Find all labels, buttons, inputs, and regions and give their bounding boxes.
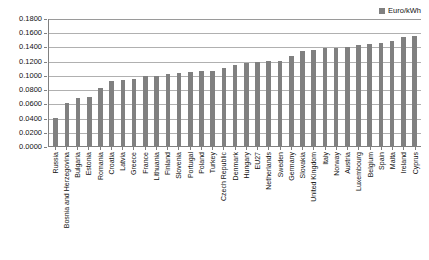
x-axis-slot: Finland [162, 148, 173, 258]
bar-slot [387, 19, 398, 146]
bar-slot [173, 19, 184, 146]
bar-slot [375, 19, 386, 146]
x-axis-tick-label: Estonia [85, 152, 92, 175]
x-axis-tick-label: Bulgaria [74, 152, 81, 178]
bar-slot [241, 19, 252, 146]
x-axis-slot: Romania [94, 148, 105, 258]
y-axis-tick-label: 0.1400 [19, 44, 42, 52]
x-axis-tick-label: United Kingdom [310, 152, 317, 202]
bar [379, 43, 384, 146]
x-axis-tick-label: Turkey [209, 152, 216, 173]
x-axis-tick-label: EU27 [254, 152, 261, 170]
y-axis-tick-label: 0.1600 [19, 29, 42, 37]
bar [323, 48, 328, 146]
y-axis-tick-label: 0.0400 [19, 115, 42, 123]
y-axis-tick-label: 0.0600 [19, 101, 42, 109]
x-axis-slot: Slovakia [297, 148, 308, 258]
y-axis-tick-mark [44, 119, 47, 120]
x-axis-slot: Bosnia and Herzegovina [60, 148, 71, 258]
bar [412, 36, 417, 146]
x-axis-tick-mark [167, 147, 168, 150]
bar-slot [72, 19, 83, 146]
bar [65, 103, 70, 146]
bar [177, 73, 182, 146]
bar-slot [263, 19, 274, 146]
x-axis-tick-mark [370, 147, 371, 150]
x-axis-slot: Spain [375, 148, 386, 258]
x-axis-slot: Estonia [83, 148, 94, 258]
bar [278, 61, 283, 146]
x-axis-tick-label: Hungary [242, 152, 249, 178]
bar-series-euro-per-kwh [49, 19, 421, 146]
bar [210, 71, 215, 146]
bar [98, 88, 103, 146]
bar [143, 76, 148, 146]
bar [300, 51, 305, 146]
bar-slot [274, 19, 285, 146]
bar [401, 37, 406, 146]
bar [87, 97, 92, 146]
x-axis-tick-label: Czech Republic [220, 152, 227, 201]
plot-area [48, 19, 421, 147]
bar-slot [84, 19, 95, 146]
x-axis-tick-mark [190, 147, 191, 150]
bar [311, 50, 316, 146]
x-axis-tick-mark [358, 147, 359, 150]
x-axis-tick-label: Spain [377, 152, 384, 170]
x-axis-tick-mark [302, 147, 303, 150]
y-axis-tick-label: 0.1200 [19, 58, 42, 66]
y-axis-tick-mark [44, 33, 47, 34]
y-axis-tick-mark [44, 147, 47, 148]
x-axis-tick-label: Sweden [276, 152, 283, 177]
x-axis-slot: Netherlands [263, 148, 274, 258]
bar [244, 63, 249, 146]
bar [53, 118, 58, 146]
bar [390, 41, 395, 146]
x-axis-tick-mark [268, 147, 269, 150]
x-axis-tick-mark [257, 147, 258, 150]
x-axis-tick-label: Portugal [186, 152, 193, 178]
x-axis-tick-label: Luxembourg [355, 152, 362, 191]
x-axis-tick-label: France [141, 152, 148, 174]
x-axis-tick-mark [325, 147, 326, 150]
y-axis: 0.00000.02000.04000.06000.08000.10000.12… [0, 19, 46, 147]
x-axis-tick-label: Slovakia [299, 152, 306, 178]
bar [266, 61, 271, 146]
x-axis-tick-mark [145, 147, 146, 150]
bar-slot [398, 19, 409, 146]
bar-slot [207, 19, 218, 146]
x-axis-slot: Greece [128, 148, 139, 258]
x-axis-slot: Denmark [229, 148, 240, 258]
y-axis-tick-mark [44, 104, 47, 105]
x-axis-tick-label: Denmark [231, 152, 238, 180]
x-axis-tick-mark [246, 147, 247, 150]
chart-legend: Euro/kWh [379, 7, 421, 15]
y-axis-tick-label: 0.0800 [19, 86, 42, 94]
x-axis-tick-mark [201, 147, 202, 150]
x-axis-tick-mark [88, 147, 89, 150]
x-axis-tick-label: Ireland [400, 152, 407, 173]
bar-slot [297, 19, 308, 146]
bar [289, 56, 294, 146]
x-axis-slot: Czech Republic [218, 148, 229, 258]
x-axis-tick-mark [347, 147, 348, 150]
x-axis-tick-mark [392, 147, 393, 150]
y-axis-tick-mark [44, 62, 47, 63]
bar [199, 71, 204, 146]
bar [367, 44, 372, 146]
x-axis-tick-label: Greece [130, 152, 137, 175]
bar [76, 98, 81, 146]
x-axis-tick-label: Lithuania [152, 152, 159, 180]
x-axis-tick-label: Germany [287, 152, 294, 181]
x-axis-tick-mark [235, 147, 236, 150]
x-axis-tick-label: Netherlands [265, 152, 272, 190]
x-axis-tick-label: Latvia [119, 152, 126, 171]
bar [121, 80, 126, 146]
bar-slot [117, 19, 128, 146]
x-axis-tick-mark [291, 147, 292, 150]
bar-slot [50, 19, 61, 146]
bar-slot [106, 19, 117, 146]
x-axis-slot: Lithuania [150, 148, 161, 258]
x-axis-slot: United Kingdom [308, 148, 319, 258]
x-axis-slot: Slovenia [173, 148, 184, 258]
